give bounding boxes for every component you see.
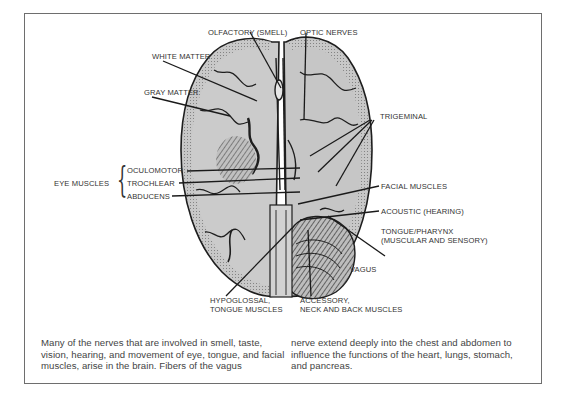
label-accessory: ACCESSORY, NECK AND BACK MUSCLES	[300, 296, 403, 314]
label-accessory-line1: ACCESSORY,	[300, 296, 403, 305]
label-vagus: VAGUS	[350, 265, 377, 274]
label-oculomotor: OCULOMOTOR	[127, 166, 183, 175]
caption-left-text: Many of the nerves that are involved in …	[41, 337, 288, 372]
label-tongue-pharynx-line2: (MUSCULAR AND SENSORY)	[381, 236, 488, 245]
label-facial-muscles: FACIAL MUSCLES	[381, 182, 447, 191]
label-abducens: ABDUCENS	[127, 192, 170, 201]
label-accessory-line2: NECK AND BACK MUSCLES	[300, 305, 403, 314]
label-gray-matter: GRAY MATTER	[144, 88, 199, 97]
label-olfactory: OLFACTORY (SMELL)	[208, 28, 287, 37]
label-optic-nerves: OPTIC NERVES	[300, 28, 358, 37]
label-eye-muscles: EYE MUSCLES	[54, 179, 109, 188]
label-acoustic: ACOUSTIC (HEARING)	[381, 207, 464, 216]
brainstem	[270, 205, 292, 297]
label-hypoglossal: HYPOGLOSSAL, TONGUE MUSCLES	[210, 296, 283, 314]
brace-icon: {	[117, 162, 127, 198]
caption-right-text: nerve extend deeply into the chest and a…	[291, 337, 531, 372]
label-hypoglossal-line1: HYPOGLOSSAL,	[210, 296, 283, 305]
label-trigeminal: TRIGEMINAL	[380, 112, 427, 121]
label-trochlear: TROCHLEAR	[127, 179, 175, 188]
label-hypoglossal-line2: TONGUE MUSCLES	[210, 305, 283, 314]
caption-right: nerve extend deeply into the chest and a…	[291, 337, 531, 372]
label-tongue-pharynx: TONGUE/PHARYNX (MUSCULAR AND SENSORY)	[381, 227, 488, 245]
label-tongue-pharynx-line1: TONGUE/PHARYNX	[381, 227, 488, 236]
caption-left: Many of the nerves that are involved in …	[41, 337, 288, 372]
label-white-matter: WHITE MATTER	[152, 52, 210, 61]
